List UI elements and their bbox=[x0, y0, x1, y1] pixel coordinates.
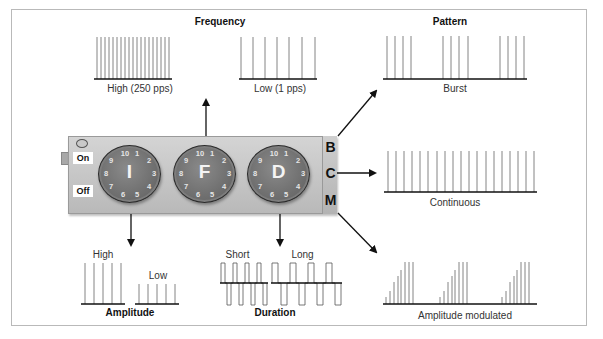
dial-number: 10 bbox=[119, 150, 131, 158]
mode-burst-button[interactable]: B bbox=[323, 139, 338, 155]
dial-number: 10 bbox=[268, 150, 280, 158]
frequency-dial[interactable]: F 10 1 2 3 4 5 6 7 8 9 bbox=[173, 145, 236, 203]
off-switch[interactable]: Off bbox=[73, 185, 93, 197]
dial-number: 4 bbox=[143, 183, 155, 191]
arrow-to-burst bbox=[338, 91, 376, 136]
dial-number: 6 bbox=[192, 191, 204, 199]
modulated-pulses bbox=[386, 262, 529, 304]
dial-number: 8 bbox=[249, 170, 261, 178]
dial-number: 3 bbox=[297, 170, 309, 178]
dial-number: 2 bbox=[292, 157, 304, 165]
mode-selector: B C M bbox=[322, 136, 337, 214]
dial-number: 7 bbox=[180, 183, 192, 191]
dial-number: 3 bbox=[223, 170, 235, 178]
dial-number: 5 bbox=[206, 191, 218, 199]
dial-number: 2 bbox=[143, 157, 155, 165]
dial-number: 5 bbox=[280, 191, 292, 199]
dial-number: 1 bbox=[131, 150, 143, 158]
amplitude-pulses bbox=[85, 263, 175, 304]
mode-modulated-button[interactable]: M bbox=[323, 192, 338, 208]
dial-number: 5 bbox=[131, 191, 143, 199]
dial-number: 2 bbox=[218, 157, 230, 165]
power-indicator-light bbox=[76, 139, 88, 148]
dial-number: 9 bbox=[105, 157, 117, 165]
dial-number: 9 bbox=[254, 157, 266, 165]
dial-number: 1 bbox=[206, 150, 218, 158]
frequency-high-pulses bbox=[97, 37, 169, 79]
dial-number: 8 bbox=[175, 170, 187, 178]
mode-continuous-button[interactable]: C bbox=[323, 165, 338, 181]
dial-number: 1 bbox=[280, 150, 292, 158]
arrow-to-modulated bbox=[338, 213, 376, 252]
dial-number: 9 bbox=[180, 157, 192, 165]
duration-dial[interactable]: D 10 1 2 3 4 5 6 7 8 9 bbox=[247, 145, 310, 203]
dial-number: 10 bbox=[194, 150, 206, 158]
duration-pulses bbox=[221, 263, 341, 305]
dial-number: 3 bbox=[148, 170, 160, 178]
burst-pulses bbox=[387, 36, 524, 79]
on-switch[interactable]: On bbox=[73, 152, 93, 164]
frequency-low-pulses bbox=[241, 37, 315, 79]
dial-number: 4 bbox=[292, 183, 304, 191]
dial-number: 7 bbox=[254, 183, 266, 191]
intensity-dial[interactable]: I 10 1 2 3 4 5 6 7 8 9 bbox=[98, 145, 161, 203]
dial-number: 4 bbox=[218, 183, 230, 191]
dial-number: 6 bbox=[266, 191, 278, 199]
dial-number: 7 bbox=[105, 183, 117, 191]
dial-number: 6 bbox=[117, 191, 129, 199]
continuous-pulses bbox=[388, 151, 534, 192]
dial-number: 8 bbox=[100, 170, 112, 178]
